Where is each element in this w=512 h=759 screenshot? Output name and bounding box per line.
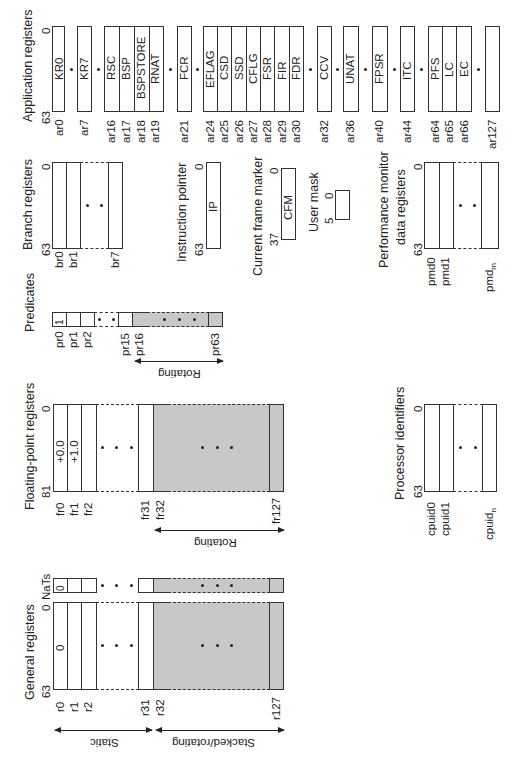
- user-mask-box: [335, 190, 350, 220]
- r0-label: r0: [54, 702, 67, 712]
- ar-register-id: ar17: [120, 120, 133, 143]
- ar-register-name: FPSR: [373, 54, 386, 85]
- br7-label: br7: [109, 251, 122, 268]
- pr1-cell: [67, 313, 81, 326]
- ar-register-name: EC: [458, 61, 471, 77]
- register-set-diagram: Application registers 63 0 KR0ar0KR7ar7R…: [0, 0, 512, 759]
- gr-bit-low: 0: [40, 605, 53, 611]
- ellipsis-dot: [193, 318, 196, 321]
- user-mask-title: User mask: [308, 172, 321, 232]
- pr16-box: [132, 312, 148, 327]
- ellipsis-dot: [130, 584, 133, 587]
- ellipsis-dot: [393, 68, 396, 71]
- cpuid-title: Processor identifiers: [394, 387, 407, 500]
- pmdm-label: pmdm: [483, 263, 500, 292]
- pr-rotating-label: Rotating: [158, 367, 201, 380]
- fr0-value: +0.0: [54, 440, 67, 463]
- fr-rotating-label: Rotating: [194, 536, 237, 549]
- pmd-title-line1: Performance monitor: [378, 151, 391, 268]
- fr31-box: [138, 404, 154, 492]
- ar-register-name: EFLAG: [204, 50, 217, 88]
- ellipsis-dot: [309, 68, 312, 71]
- ellipsis-dot: [474, 446, 477, 449]
- br-gap: [80, 162, 109, 249]
- ar-register-id: ar30: [290, 120, 303, 143]
- ar-register-id: ar65: [443, 120, 456, 143]
- static-label: Static: [90, 736, 119, 749]
- nat-r1-cell: [68, 579, 82, 592]
- ip-bit-high: 63: [193, 243, 206, 256]
- ar-register-id: ar27: [247, 120, 260, 143]
- ip-title: Instruction pointer: [176, 163, 189, 262]
- ar-register-id: ar44: [401, 120, 414, 143]
- ar-register-name: CCV: [318, 56, 331, 80]
- r31-label: r31: [139, 699, 152, 716]
- nat-r31-box: [138, 578, 154, 593]
- ar-register-name: CSD: [218, 56, 231, 80]
- ellipsis-dot: [459, 446, 462, 449]
- pr1-label: pr1: [67, 331, 80, 348]
- r2-label: r2: [82, 702, 95, 712]
- ar-register-id: ar29: [276, 120, 289, 143]
- r1-label: r1: [68, 702, 81, 712]
- ellipsis-dot: [86, 204, 89, 207]
- fr127-box: [269, 404, 284, 492]
- ellipsis-dot: [178, 318, 181, 321]
- br1-label: br1: [67, 251, 80, 268]
- pr16-label: pr16: [133, 333, 146, 356]
- r31-box: [138, 602, 154, 690]
- pmd0-label: pmd0: [425, 257, 438, 286]
- ellipsis-dot: [473, 204, 476, 207]
- ellipsis-dot: [100, 204, 103, 207]
- ellipsis-dot: [336, 68, 339, 71]
- ellipsis-dot: [230, 446, 233, 449]
- ellipsis-dot: [115, 644, 118, 647]
- ellipsis-dot: [364, 68, 367, 71]
- nat-rotating-gap: [168, 578, 270, 593]
- ellipsis-dot: [163, 318, 166, 321]
- ellipsis-dot: [477, 68, 480, 71]
- ellipsis-dot: [115, 446, 118, 449]
- ellipsis-dot: [115, 584, 118, 587]
- predicates-title: Predicates: [24, 273, 37, 332]
- ip-value: IP: [207, 201, 220, 212]
- r32-label: r32: [154, 699, 167, 716]
- ellipsis-dot: [420, 68, 423, 71]
- fr32-box: [153, 404, 169, 492]
- pr15-label: pr15: [119, 333, 132, 356]
- ellipsis-dot: [101, 584, 104, 587]
- ar-register-id: ar32: [318, 120, 331, 143]
- cpuid0-cell: [425, 405, 440, 491]
- cfm-title: Current frame marker: [252, 157, 265, 276]
- r127-box: [269, 602, 284, 690]
- stacked-rotating-arrow: [156, 730, 284, 731]
- cpuid0-label: cpuid0: [425, 502, 438, 536]
- br7-box: [108, 162, 123, 249]
- app-bit-high: 63: [40, 111, 53, 124]
- branch-registers-title: Branch registers: [22, 159, 35, 250]
- cfm-bit-low: 0: [268, 168, 281, 174]
- pr15-box: [118, 312, 133, 327]
- ellipsis-dot: [98, 318, 101, 321]
- ar-register-id: ar66: [458, 120, 471, 143]
- ar-register-id: ar28: [261, 120, 274, 143]
- br0-cell: [53, 163, 67, 248]
- nat-r127-box: [269, 578, 284, 593]
- fr-rotating-gap: [168, 404, 270, 492]
- ar-register-id: ar36: [344, 120, 357, 143]
- pr63-box: [208, 312, 223, 327]
- ar-register-name: PFS: [429, 58, 442, 80]
- ellipsis-dot: [130, 644, 133, 647]
- ellipsis-dot: [70, 68, 73, 71]
- ellipsis-dot: [216, 446, 219, 449]
- ar-register-id: ar21: [178, 120, 191, 143]
- ar-register-name: BSPSTORE: [135, 37, 148, 99]
- fr2-label: fr2: [82, 503, 95, 516]
- ar-register-name: KR0: [53, 58, 66, 80]
- ar-register-id: ar25: [218, 120, 231, 143]
- fp-bit-low: 0: [40, 406, 53, 412]
- pmd0-cell: [425, 163, 440, 248]
- ellipsis-dot: [216, 644, 219, 647]
- ar-register-id: ar40: [373, 120, 386, 143]
- cpuidn-box: [482, 404, 497, 492]
